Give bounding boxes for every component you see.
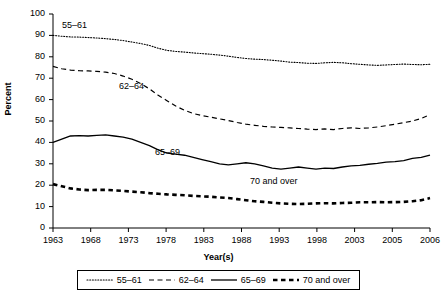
series-annotation-70-and-over: 70 and over	[250, 176, 298, 186]
y-tick-label: 60	[19, 94, 45, 104]
legend-item-3[interactable]: 70 and over	[273, 275, 351, 285]
x-tick-label: 2005	[372, 235, 412, 245]
y-tick-label: 80	[19, 51, 45, 61]
series-line-2	[53, 135, 430, 169]
x-tick-label: 1963	[33, 235, 73, 245]
y-tick-label: 90	[19, 29, 45, 39]
x-tick-label: 1973	[108, 235, 148, 245]
y-tick-label: 100	[19, 8, 45, 18]
legend-item-2[interactable]: 65–69	[211, 275, 266, 285]
legend-item-0[interactable]: 55–61	[87, 275, 142, 285]
legend-swatch-icon	[273, 276, 299, 284]
x-tick-label: 2006	[410, 235, 445, 245]
x-tick-label: 1993	[259, 235, 299, 245]
legend-swatch-icon	[87, 276, 113, 284]
series-line-1	[53, 66, 430, 129]
y-tick-label: 70	[19, 72, 45, 82]
legend-label: 55–61	[117, 275, 142, 285]
series-line-3	[53, 184, 430, 204]
y-tick-label: 20	[19, 179, 45, 189]
plot-area	[0, 0, 437, 260]
legend-swatch-icon	[211, 276, 237, 284]
y-tick-label: 40	[19, 136, 45, 146]
series-line-0	[53, 35, 430, 65]
x-tick-label: 1983	[184, 235, 224, 245]
legend-label: 70 and over	[303, 275, 351, 285]
legend-label: 62–64	[179, 275, 204, 285]
y-tick-label: 30	[19, 158, 45, 168]
x-tick-label: 1978	[146, 235, 186, 245]
x-tick-label: 1988	[222, 235, 262, 245]
legend-label: 65–69	[241, 275, 266, 285]
x-tick-label: 1998	[297, 235, 337, 245]
y-tick-label: 50	[19, 115, 45, 125]
series-annotation-62-64: 62–64	[119, 81, 144, 91]
series-annotation-65-69: 65–69	[155, 147, 180, 157]
x-tick-label: 2003	[335, 235, 375, 245]
legend-swatch-icon	[149, 276, 175, 284]
y-tick-label: 0	[19, 222, 45, 232]
chart-legend: 55–6162–6465–6970 and over	[77, 270, 360, 290]
y-tick-label: 10	[19, 201, 45, 211]
x-tick-label: 1968	[71, 235, 111, 245]
series-annotation-55-61: 55–61	[62, 20, 87, 30]
legend-item-1[interactable]: 62–64	[149, 275, 204, 285]
